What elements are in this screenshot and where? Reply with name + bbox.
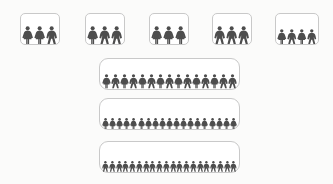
person-female-icon xyxy=(152,118,159,129)
person-male-icon xyxy=(230,161,237,172)
figure-strip xyxy=(276,14,318,44)
person-male-icon xyxy=(156,161,163,172)
pictogram-group-box xyxy=(275,13,319,45)
person-male-icon xyxy=(163,161,170,172)
person-female-icon xyxy=(156,74,165,89)
person-male-icon xyxy=(287,29,297,44)
person-female-icon xyxy=(34,26,45,44)
pictogram-group-box xyxy=(99,98,240,130)
person-male-icon xyxy=(147,74,156,89)
person-female-icon xyxy=(230,118,237,129)
figure-strip xyxy=(213,14,251,44)
person-male-icon xyxy=(111,26,122,44)
figure-strip xyxy=(100,142,239,172)
pictogram-group-box xyxy=(212,13,252,45)
person-female-icon xyxy=(102,118,109,129)
person-male-icon xyxy=(238,26,249,44)
pictogram-group-box xyxy=(99,141,240,173)
person-female-icon xyxy=(174,74,183,89)
figure-strip xyxy=(100,99,239,129)
person-female-icon xyxy=(277,29,287,44)
person-female-icon xyxy=(173,118,180,129)
person-male-icon xyxy=(214,26,225,44)
person-female-icon xyxy=(209,118,216,129)
person-male-icon xyxy=(228,74,237,89)
person-female-icon xyxy=(194,118,201,129)
person-male-icon xyxy=(46,26,57,44)
person-male-icon xyxy=(109,161,116,172)
person-female-icon xyxy=(166,118,173,129)
person-male-icon xyxy=(170,161,177,172)
person-female-icon xyxy=(109,118,116,129)
person-male-icon xyxy=(217,161,224,172)
pictogram-group-box xyxy=(149,13,189,45)
person-female-icon xyxy=(159,118,166,129)
person-male-icon xyxy=(219,74,228,89)
person-male-icon xyxy=(102,161,109,172)
person-female-icon xyxy=(187,118,194,129)
person-female-icon xyxy=(210,74,219,89)
person-female-icon xyxy=(163,26,174,44)
pictogram-group-box xyxy=(20,13,60,45)
person-female-icon xyxy=(297,29,307,44)
person-female-icon xyxy=(216,118,223,129)
figure-strip xyxy=(100,59,239,89)
person-female-icon xyxy=(22,26,33,44)
person-male-icon xyxy=(129,74,138,89)
person-male-icon xyxy=(111,74,120,89)
person-male-icon xyxy=(224,161,231,172)
person-female-icon xyxy=(180,118,187,129)
person-female-icon xyxy=(145,118,152,129)
person-female-icon xyxy=(123,118,130,129)
person-male-icon xyxy=(129,161,136,172)
person-female-icon xyxy=(130,118,137,129)
figure-strip xyxy=(21,14,59,44)
person-female-icon xyxy=(192,74,201,89)
person-female-icon xyxy=(175,26,186,44)
person-female-icon xyxy=(87,26,98,44)
person-male-icon xyxy=(149,161,156,172)
figure-strip xyxy=(150,14,188,44)
person-female-icon xyxy=(120,74,129,89)
person-female-icon xyxy=(102,74,111,89)
person-male-icon xyxy=(203,161,210,172)
person-male-icon xyxy=(99,26,110,44)
pictogram-group-box xyxy=(85,13,125,45)
figure-strip xyxy=(86,14,124,44)
pictogram-canvas xyxy=(0,0,333,184)
person-male-icon xyxy=(201,74,210,89)
person-male-icon xyxy=(226,26,237,44)
person-male-icon xyxy=(143,161,150,172)
person-male-icon xyxy=(176,161,183,172)
person-female-icon xyxy=(116,118,123,129)
person-male-icon xyxy=(165,74,174,89)
person-male-icon xyxy=(197,161,204,172)
person-male-icon xyxy=(307,29,317,44)
person-male-icon xyxy=(183,161,190,172)
person-male-icon xyxy=(122,161,129,172)
person-female-icon xyxy=(138,118,145,129)
person-male-icon xyxy=(183,74,192,89)
person-male-icon xyxy=(136,161,143,172)
person-female-icon xyxy=(201,118,208,129)
person-male-icon xyxy=(116,161,123,172)
person-male-icon xyxy=(210,161,217,172)
person-female-icon xyxy=(138,74,147,89)
person-female-icon xyxy=(151,26,162,44)
person-female-icon xyxy=(223,118,230,129)
pictogram-group-box xyxy=(99,58,240,90)
person-male-icon xyxy=(190,161,197,172)
